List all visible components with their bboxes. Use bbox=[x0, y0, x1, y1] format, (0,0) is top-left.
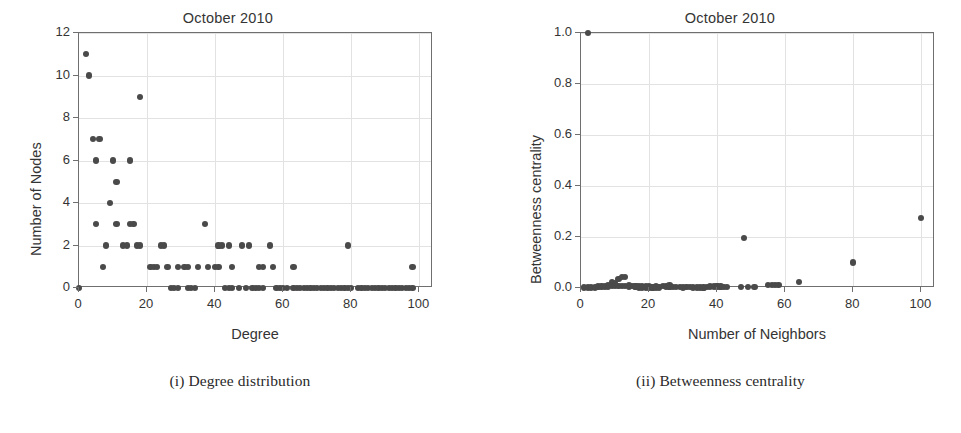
data-point bbox=[588, 284, 594, 290]
gridline-vertical bbox=[283, 33, 284, 286]
gridline-vertical bbox=[853, 33, 854, 286]
data-point bbox=[666, 283, 672, 289]
y-tick bbox=[73, 202, 78, 203]
y-tick-label: 4 bbox=[26, 194, 70, 209]
x-tick-label: 60 bbox=[759, 296, 809, 311]
data-point bbox=[636, 284, 642, 290]
x-tick-label: 80 bbox=[325, 296, 375, 311]
data-point bbox=[273, 285, 279, 291]
data-point bbox=[185, 285, 191, 291]
data-point bbox=[314, 285, 320, 291]
data-point bbox=[751, 284, 757, 290]
x-tick-label: 20 bbox=[623, 296, 673, 311]
data-point bbox=[100, 264, 106, 270]
data-point bbox=[636, 283, 642, 289]
data-point bbox=[202, 221, 208, 227]
panel-caption: (i) Degree distribution bbox=[0, 372, 480, 390]
data-point bbox=[660, 283, 666, 289]
data-point bbox=[324, 285, 330, 291]
data-point bbox=[151, 264, 157, 270]
data-point bbox=[609, 279, 615, 285]
data-point bbox=[639, 283, 645, 289]
y-tick bbox=[575, 32, 580, 33]
data-point bbox=[171, 285, 177, 291]
data-point bbox=[680, 284, 686, 290]
y-tick-label: 0.2 bbox=[528, 228, 572, 243]
plot-area bbox=[78, 32, 432, 287]
panel-degree-distribution: October 2010 Degree Number of Nodes 0246… bbox=[0, 0, 480, 433]
x-tick bbox=[350, 287, 351, 292]
data-point bbox=[687, 284, 693, 290]
gridline-horizontal bbox=[581, 84, 933, 85]
data-point bbox=[595, 284, 601, 290]
data-point bbox=[663, 284, 669, 290]
data-point bbox=[673, 284, 679, 290]
gridline-vertical bbox=[785, 33, 786, 286]
x-tick bbox=[78, 287, 79, 292]
panel-betweenness-centrality: October 2010 Number of Neighbors Between… bbox=[480, 0, 961, 433]
data-point bbox=[666, 282, 672, 288]
y-tick-label: 10 bbox=[26, 67, 70, 82]
gridline-vertical bbox=[649, 33, 650, 286]
gridline-vertical bbox=[351, 33, 352, 286]
data-point bbox=[612, 280, 618, 286]
gridline-horizontal bbox=[79, 246, 431, 247]
data-point bbox=[772, 282, 778, 288]
data-point bbox=[321, 285, 327, 291]
data-point bbox=[581, 284, 587, 290]
data-point bbox=[765, 282, 771, 288]
data-point bbox=[90, 136, 96, 142]
chart-degree-distribution: October 2010 Degree Number of Nodes 0246… bbox=[18, 6, 462, 358]
x-tick bbox=[852, 287, 853, 292]
x-axis-title: Degree bbox=[78, 326, 432, 342]
data-point bbox=[389, 285, 395, 291]
data-point bbox=[113, 179, 119, 185]
y-tick bbox=[73, 117, 78, 118]
data-point bbox=[619, 274, 625, 280]
data-point bbox=[598, 283, 604, 289]
data-point bbox=[632, 283, 638, 289]
data-point bbox=[226, 285, 232, 291]
data-point bbox=[243, 285, 249, 291]
panel-caption: (ii) Betweenness centrality bbox=[480, 372, 961, 390]
gridline-horizontal bbox=[581, 186, 933, 187]
gridline-vertical bbox=[147, 33, 148, 286]
gridline-vertical bbox=[215, 33, 216, 286]
data-point bbox=[168, 285, 174, 291]
x-tick bbox=[648, 287, 649, 292]
data-point bbox=[175, 264, 181, 270]
data-point bbox=[403, 285, 409, 291]
data-point bbox=[632, 283, 638, 289]
gridline-horizontal bbox=[581, 237, 933, 238]
data-point bbox=[649, 284, 655, 290]
data-point bbox=[592, 285, 598, 291]
data-point bbox=[256, 285, 262, 291]
data-point bbox=[130, 221, 136, 227]
gridline-vertical bbox=[419, 33, 420, 286]
data-point bbox=[205, 264, 211, 270]
data-point bbox=[229, 264, 235, 270]
data-point bbox=[185, 264, 191, 270]
data-point bbox=[83, 51, 89, 57]
data-point bbox=[382, 285, 388, 291]
data-point bbox=[270, 264, 276, 270]
gridline-horizontal bbox=[79, 118, 431, 119]
data-point bbox=[649, 284, 655, 290]
data-point bbox=[406, 285, 412, 291]
data-point bbox=[372, 285, 378, 291]
data-point bbox=[338, 285, 344, 291]
y-tick bbox=[73, 160, 78, 161]
data-point bbox=[615, 276, 621, 282]
y-tick bbox=[575, 134, 580, 135]
data-point bbox=[260, 285, 266, 291]
data-point bbox=[188, 285, 194, 291]
data-point bbox=[656, 284, 662, 290]
x-tick bbox=[920, 287, 921, 292]
data-point bbox=[328, 285, 334, 291]
data-point bbox=[409, 264, 415, 270]
chart-title: October 2010 bbox=[520, 10, 940, 26]
data-point bbox=[181, 264, 187, 270]
data-point bbox=[585, 284, 591, 290]
x-tick-label: 100 bbox=[393, 296, 443, 311]
x-tick-label: 80 bbox=[827, 296, 877, 311]
